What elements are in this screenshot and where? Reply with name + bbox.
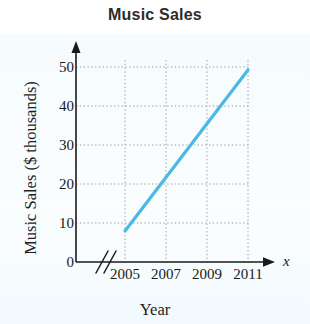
y-axis-arrowhead — [72, 41, 81, 53]
x-tick-label-2007: 2007 — [143, 266, 189, 283]
horizontal-gridlines — [76, 67, 249, 223]
x-axis-variable-label: x — [283, 253, 290, 270]
x-tick-label-2005: 2005 — [102, 266, 148, 283]
y-tick-label-30: 30 — [38, 137, 74, 154]
y-tick-label-40: 40 — [38, 98, 74, 115]
x-tick-label-2011: 2011 — [225, 266, 271, 283]
y-tick-label-0: 0 — [38, 254, 74, 271]
y-tick-label-20: 20 — [38, 176, 74, 193]
data-line-music-sales — [125, 70, 248, 231]
vertical-gridlines — [125, 60, 248, 262]
x-tick-label-2009: 2009 — [184, 266, 230, 283]
y-tick-label-50: 50 — [38, 59, 74, 76]
chart-figure: Music Sales Music Sales ($ thousands) Ye… — [0, 0, 310, 324]
y-tick-label-10: 10 — [38, 215, 74, 232]
